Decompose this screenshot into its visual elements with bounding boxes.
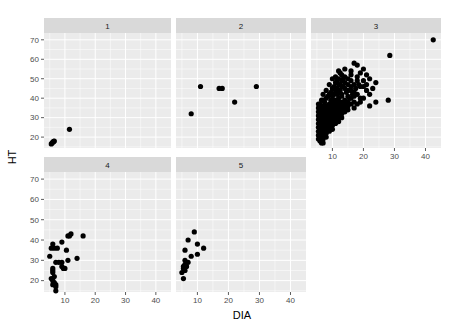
x-tick-label: 20: [224, 296, 233, 305]
facet-strip-label: 3: [374, 22, 379, 31]
x-tick-label: 30: [121, 296, 130, 305]
data-point: [182, 248, 187, 253]
panel-background: [176, 33, 306, 148]
faceted-scatter-chart: 12345 203040506070203040506070 102030401…: [0, 0, 457, 331]
data-point: [81, 233, 86, 238]
data-point: [339, 94, 344, 99]
panel-background: [44, 33, 171, 148]
data-point: [361, 78, 366, 83]
data-point: [344, 90, 349, 95]
data-point: [64, 248, 69, 253]
x-tick-label: 30: [255, 296, 264, 305]
data-point: [59, 239, 64, 244]
x-tick-label: 10: [328, 152, 337, 161]
facet-strip-label: 2: [239, 22, 244, 31]
data-point: [232, 99, 237, 104]
facet-panels: 12345: [44, 18, 441, 293]
data-point: [65, 258, 70, 263]
facet-panel-5: 5: [176, 157, 306, 292]
y-tick-label: 70: [30, 175, 39, 184]
data-point: [186, 237, 191, 242]
data-point: [220, 86, 225, 91]
data-point: [317, 107, 322, 112]
y-tick-label: 60: [30, 195, 39, 204]
x-tick-label: 20: [359, 152, 368, 161]
data-point: [67, 127, 72, 132]
data-point: [62, 266, 67, 271]
x-tick-label: 40: [151, 296, 160, 305]
y-tick-label: 20: [30, 276, 39, 285]
data-point: [370, 86, 375, 91]
data-point: [352, 105, 357, 110]
data-point: [198, 84, 203, 89]
facet-panel-1: 1: [44, 18, 171, 148]
data-point: [319, 98, 324, 103]
data-point: [47, 254, 52, 259]
data-point: [195, 241, 200, 246]
data-point: [358, 99, 363, 104]
y-tick-label: 60: [30, 55, 39, 64]
y-tick-label: 30: [30, 113, 39, 122]
y-tick-label: 40: [30, 94, 39, 103]
x-axis-title: DIA: [233, 309, 252, 321]
data-point: [350, 92, 355, 97]
data-point: [330, 76, 335, 81]
data-point: [181, 276, 186, 281]
data-point: [342, 66, 347, 71]
data-point: [387, 53, 392, 58]
data-point: [327, 82, 332, 87]
data-point: [355, 74, 360, 79]
facet-panel-2: 2: [176, 18, 306, 148]
y-tick-label: 70: [30, 36, 39, 45]
facet-strip-label: 4: [105, 161, 110, 170]
data-point: [74, 256, 79, 261]
data-point: [431, 37, 436, 42]
data-point: [325, 105, 330, 110]
data-point: [192, 229, 197, 234]
x-tick-label: 10: [60, 296, 69, 305]
data-point: [328, 98, 333, 103]
data-point: [373, 80, 378, 85]
data-point: [338, 82, 343, 87]
data-point: [345, 82, 350, 87]
facet-panel-4: 4: [44, 157, 171, 293]
x-tick-label: 10: [193, 296, 202, 305]
data-point: [65, 233, 70, 238]
data-point: [341, 101, 346, 106]
data-point: [189, 254, 194, 259]
data-point: [339, 115, 344, 120]
data-point: [341, 76, 346, 81]
data-point: [331, 92, 336, 97]
data-point: [345, 107, 350, 112]
data-point: [367, 76, 372, 81]
facet-strip-label: 1: [105, 22, 110, 31]
data-point: [53, 288, 58, 293]
panel-background: [44, 172, 171, 292]
data-point: [386, 98, 391, 103]
y-tick-label: 20: [30, 133, 39, 142]
y-tick-label: 50: [30, 216, 39, 225]
data-point: [51, 139, 56, 144]
data-point: [189, 111, 194, 116]
data-point: [352, 61, 357, 66]
data-point: [367, 103, 372, 108]
x-tick-label: 40: [286, 296, 295, 305]
y-axis-title: HT: [6, 149, 18, 164]
data-point: [319, 117, 324, 122]
data-point: [254, 84, 259, 89]
x-tick-label: 20: [91, 296, 100, 305]
x-tick-label: 40: [421, 152, 430, 161]
data-point: [338, 70, 343, 75]
data-point: [356, 82, 361, 87]
data-point: [201, 246, 206, 251]
data-point: [50, 282, 55, 287]
y-tick-label: 30: [30, 256, 39, 265]
x-tick-label: 30: [390, 152, 399, 161]
data-point: [179, 270, 184, 275]
data-point: [373, 99, 378, 104]
y-tick-label: 50: [30, 75, 39, 84]
data-point: [321, 92, 326, 97]
y-axis: 203040506070203040506070: [30, 36, 44, 286]
data-point: [195, 252, 200, 257]
data-point: [55, 246, 60, 251]
